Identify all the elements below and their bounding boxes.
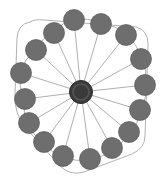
node-circle[interactable]	[44, 23, 65, 44]
graph-node[interactable]	[131, 49, 152, 70]
graph-node[interactable]	[130, 100, 151, 121]
hub-node[interactable]	[70, 81, 93, 104]
graph-node[interactable]	[44, 23, 65, 44]
graph-node[interactable]	[53, 146, 74, 167]
node-circle[interactable]	[135, 75, 156, 96]
graph-node[interactable]	[11, 63, 32, 84]
node-circle[interactable]	[15, 89, 36, 110]
graph-node[interactable]	[26, 40, 47, 61]
node-circle[interactable]	[130, 100, 151, 121]
node-circle[interactable]	[116, 25, 137, 46]
network-diagram	[0, 0, 165, 182]
graph-node[interactable]	[91, 14, 112, 35]
node-circle[interactable]	[119, 122, 140, 143]
node-circle[interactable]	[64, 10, 85, 31]
node-circle[interactable]	[91, 14, 112, 35]
graph-node[interactable]	[15, 89, 36, 110]
node-circle[interactable]	[80, 149, 101, 170]
graph-canvas	[0, 0, 165, 182]
graph-node[interactable]	[19, 113, 40, 134]
graph-node[interactable]	[119, 122, 140, 143]
graph-node[interactable]	[34, 132, 55, 153]
node-circle[interactable]	[26, 40, 47, 61]
graph-node[interactable]	[102, 138, 123, 159]
hub-layer	[70, 81, 93, 104]
node-circle[interactable]	[102, 138, 123, 159]
node-circle[interactable]	[19, 113, 40, 134]
graph-node[interactable]	[80, 149, 101, 170]
graph-node[interactable]	[64, 10, 85, 31]
node-circle[interactable]	[34, 132, 55, 153]
node-circle[interactable]	[11, 63, 32, 84]
graph-node[interactable]	[116, 25, 137, 46]
node-circle[interactable]	[131, 49, 152, 70]
node-circle[interactable]	[53, 146, 74, 167]
graph-node[interactable]	[135, 75, 156, 96]
